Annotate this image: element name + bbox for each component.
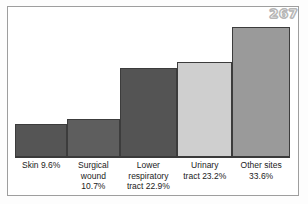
axis-label-line: Skin 9.6% <box>16 160 66 171</box>
axis-label-0: Skin 9.6% <box>15 159 67 171</box>
axis-label-line: respiratory <box>121 171 177 182</box>
bar-1 <box>67 119 119 156</box>
axis-label-line: Other sites <box>233 160 289 171</box>
bar-slot <box>120 14 178 156</box>
bar-4 <box>232 27 290 156</box>
bar-3 <box>177 62 232 156</box>
axis-label-line: 33.6% <box>233 171 289 182</box>
bar-0 <box>15 124 67 156</box>
axis-label-1: Surgicalwound10.7% <box>67 159 119 192</box>
axis-label-line: Surgical <box>68 160 118 171</box>
bar-slot <box>177 14 232 156</box>
axis-label-4: Other sites33.6% <box>232 159 290 181</box>
bar-slot <box>232 14 290 156</box>
category-axis-labels: Skin 9.6%Surgicalwound10.7%Lowerrespirat… <box>15 159 290 192</box>
plot-area <box>15 14 290 156</box>
axis-label-line: Urinary <box>178 160 231 171</box>
bar-chart-figure: 267 Skin 9.6%Surgicalwound10.7%Lowerresp… <box>0 0 308 204</box>
axis-label-line: Lower <box>121 160 177 171</box>
axis-label-line: wound <box>68 171 118 182</box>
bar-slot <box>15 14 67 156</box>
axis-label-line: tract 22.9% <box>121 181 177 192</box>
axis-label-line: 10.7% <box>68 181 118 192</box>
bar-2 <box>120 68 178 156</box>
axis-label-2: Lowerrespiratorytract 22.9% <box>120 159 178 192</box>
bar-series <box>15 14 290 156</box>
axis-baseline <box>15 156 290 158</box>
axis-label-line: tract 23.2% <box>178 171 231 182</box>
axis-label-3: Urinarytract 23.2% <box>177 159 232 181</box>
bar-slot <box>67 14 119 156</box>
